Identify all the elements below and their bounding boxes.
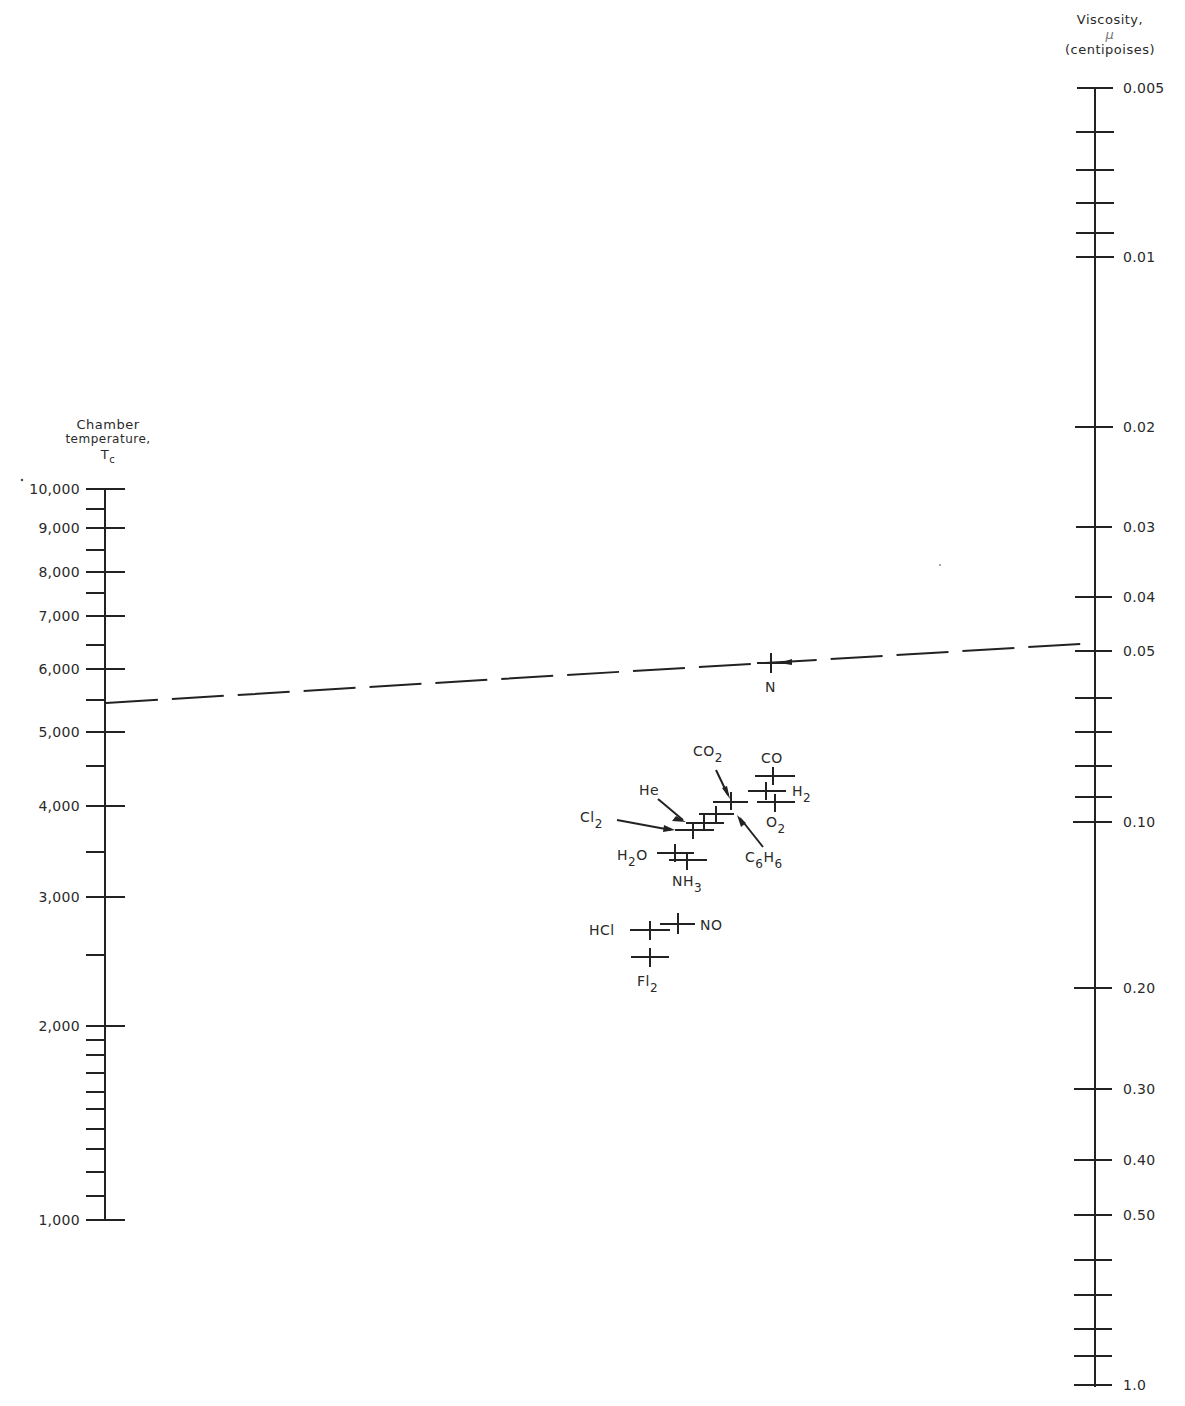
- label-fl2: Fl2: [637, 973, 658, 995]
- arrow-co2-icon: [722, 786, 730, 799]
- tick-label-0.04: 0.04: [1123, 589, 1155, 605]
- tick-label-4000: 4,000: [38, 798, 80, 814]
- tick-label-0.30: 0.30: [1123, 1081, 1155, 1097]
- tick-label-3000: 3,000: [38, 889, 80, 905]
- example-dashed-line: [106, 643, 1095, 703]
- label-no: NO: [700, 917, 723, 933]
- left-axis: [86, 488, 125, 1220]
- right-axis-labels: 0.005 0.01 0.02 0.03 0.04 0.05 0.10 0.20…: [1123, 80, 1165, 1393]
- left-axis-labels: 10,000 9,000 8,000 7,000 6,000 5,000 4,0…: [29, 481, 80, 1228]
- tick-label-1.0: 1.0: [1123, 1377, 1146, 1393]
- tick-label-5000: 5,000: [38, 724, 80, 740]
- tick-label-7000: 7,000: [38, 608, 80, 624]
- tick-label-8000: 8,000: [38, 564, 80, 580]
- label-co: CO: [761, 750, 783, 766]
- label-nh3: NH3: [672, 873, 702, 895]
- tick-label-1000: 1,000: [38, 1212, 80, 1228]
- label-o2: O2: [766, 814, 786, 836]
- tick-label-0.05: 0.05: [1123, 643, 1155, 659]
- tick-label-0.40: 0.40: [1123, 1152, 1155, 1168]
- tick-label-0.50: 0.50: [1123, 1207, 1155, 1223]
- right-axis: [1073, 87, 1114, 1387]
- tick-label-0.10: 0.10: [1123, 814, 1155, 830]
- label-co2: CO2: [693, 743, 723, 765]
- tick-label-0.01: 0.01: [1123, 249, 1155, 265]
- scan-speck: [21, 479, 23, 481]
- tick-label-10000: 10,000: [29, 481, 80, 497]
- label-c6h6: C6H6: [745, 849, 783, 871]
- scan-speck: [939, 564, 941, 566]
- tick-label-0.005: 0.005: [1123, 80, 1165, 96]
- tick-label-0.20: 0.20: [1123, 980, 1155, 996]
- label-cl2: Cl2: [580, 809, 603, 831]
- tick-label-0.02: 0.02: [1123, 419, 1155, 435]
- label-h2o: H2O: [617, 847, 648, 869]
- tick-label-2000: 2,000: [38, 1018, 80, 1034]
- gas-labels: N CO H2 O2 CO2 C6H6 He Cl2 H2O NH3 HCl N…: [580, 679, 811, 995]
- nomograph: 10,000 9,000 8,000 7,000 6,000 5,000 4,0…: [0, 0, 1185, 1406]
- arrow-cl2-icon: [663, 825, 675, 832]
- tick-label-0.03: 0.03: [1123, 519, 1155, 535]
- label-he: He: [639, 782, 659, 798]
- label-hcl: HCl: [589, 922, 615, 938]
- label-n: N: [765, 679, 776, 695]
- tick-label-9000: 9,000: [38, 520, 80, 536]
- tick-label-6000: 6,000: [38, 661, 80, 677]
